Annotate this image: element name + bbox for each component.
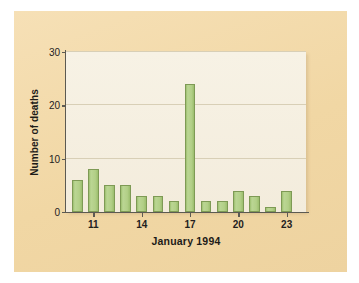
y-tick-mark-30	[62, 52, 66, 53]
bar-jan-16	[169, 201, 180, 212]
bar-jan-23	[281, 191, 292, 212]
y-tick-label-0: 0	[54, 207, 60, 218]
y-tick-label-10: 10	[49, 153, 60, 164]
x-tick-label-11: 11	[88, 219, 99, 230]
y-tick-mark-20	[62, 105, 66, 106]
y-tick-mark-0	[62, 212, 66, 213]
y-axis-title: Number of deaths	[26, 52, 42, 212]
bar-jan-20	[233, 191, 244, 212]
y-axis-title-text: Number of deaths	[29, 89, 40, 176]
gridline-30	[66, 51, 306, 52]
y-tick-label-20: 20	[49, 100, 60, 111]
x-tick-label-14: 14	[136, 219, 147, 230]
bar-jan-15	[153, 196, 164, 212]
x-axis-line	[65, 212, 309, 213]
bar-jan-13	[120, 185, 131, 212]
figure-container: 0102030 1114172023 Number of deaths Janu…	[0, 0, 359, 283]
x-axis-title: January 1994	[66, 235, 306, 247]
bar-jan-17	[185, 84, 196, 212]
x-tick-label-17: 17	[184, 219, 195, 230]
x-tick-label-20: 20	[233, 219, 244, 230]
x-tick-mark-11	[93, 213, 94, 217]
bar-jan-10	[72, 180, 83, 212]
bar-jan-14	[136, 196, 147, 212]
x-tick-mark-23	[287, 213, 288, 217]
bar-jan-11	[88, 169, 99, 212]
bar-jan-12	[104, 185, 115, 212]
bar-jan-18	[201, 201, 212, 212]
x-tick-label-23: 23	[281, 219, 292, 230]
x-tick-mark-17	[190, 213, 191, 217]
bar-jan-19	[217, 201, 228, 212]
bar-jan-21	[249, 196, 260, 212]
plot-area	[66, 52, 306, 212]
x-tick-mark-20	[238, 213, 239, 217]
y-tick-label-30: 30	[49, 47, 60, 58]
y-axis-line	[65, 50, 66, 213]
x-tick-mark-14	[142, 213, 143, 217]
y-tick-mark-10	[62, 159, 66, 160]
